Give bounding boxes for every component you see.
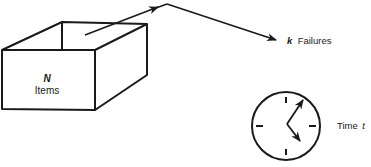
failures-symbol: k (287, 35, 293, 46)
failures-text: Failures (298, 35, 332, 46)
time-text: Time (337, 120, 358, 131)
clock-icon (252, 92, 320, 160)
items-label: Items (35, 85, 59, 96)
box-right-face (95, 24, 147, 110)
time-label: Time t (337, 120, 365, 131)
failures-label: k Failures (287, 35, 332, 46)
failure-flow-arrow (85, 4, 276, 40)
time-symbol: t (362, 120, 365, 131)
clock-minute-hand (287, 100, 303, 124)
items-symbol: N (43, 73, 51, 84)
items-box (2, 22, 147, 110)
reliability-diagram: N Items k Failures Time t (0, 0, 371, 167)
clock-hour-hand (287, 124, 300, 141)
box-top-edges (2, 22, 147, 50)
